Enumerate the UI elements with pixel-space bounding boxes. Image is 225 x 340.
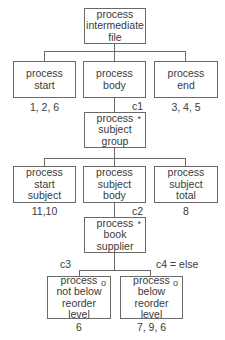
- connector: [114, 97, 115, 112]
- node-label: process book supplier: [97, 218, 134, 253]
- condition-c1: c1: [132, 100, 143, 112]
- connector: [114, 158, 115, 166]
- connector: [44, 158, 186, 159]
- connector: [114, 202, 115, 217]
- connector: [44, 158, 45, 166]
- connector: [79, 270, 151, 271]
- condition-c2: c2: [132, 205, 143, 217]
- annotation-start-subject: 11,10: [13, 205, 76, 217]
- node-label: process start: [26, 68, 63, 91]
- node-label: process subject group: [97, 113, 134, 148]
- node-label: process start subject: [26, 167, 63, 202]
- connector: [114, 51, 115, 61]
- node-label: process intermediate file: [86, 9, 144, 44]
- selection-marker-icon: o: [173, 279, 178, 288]
- annotation-not-below: 6: [47, 321, 111, 333]
- node-process-intermediate-file: process intermediate file: [84, 8, 146, 44]
- node-label: process end: [168, 68, 205, 91]
- annotation-below: 7, 9, 6: [120, 321, 183, 333]
- annotation-start: 1, 2, 6: [13, 101, 76, 113]
- connector: [185, 51, 186, 61]
- node-label: process subject body: [96, 167, 133, 202]
- connector: [114, 147, 115, 158]
- iteration-marker-icon: *: [137, 115, 141, 124]
- node-process-subject-total: process subject total: [154, 166, 218, 203]
- node-process-start: process start: [13, 61, 76, 98]
- node-process-end: process end: [154, 61, 218, 98]
- node-process-below-reorder-level: process below reorder level o: [120, 276, 183, 319]
- node-process-body: process body: [83, 61, 146, 98]
- node-label: process subject total: [168, 167, 205, 202]
- node-label: process not below reorder level: [57, 275, 102, 321]
- node-process-subject-group: process subject group *: [84, 112, 146, 148]
- connector: [44, 51, 186, 52]
- connector: [185, 158, 186, 166]
- annotation-end: 3, 4, 5: [154, 101, 218, 113]
- node-label: process below reorder level: [133, 275, 170, 321]
- connector: [114, 252, 115, 270]
- annotation-subject-total: 8: [154, 205, 218, 217]
- node-label: process body: [96, 68, 133, 91]
- node-process-book-supplier: process book supplier *: [84, 217, 146, 253]
- connector: [114, 43, 115, 51]
- node-process-not-below-reorder-level: process not below reorder level o: [47, 276, 111, 319]
- iteration-marker-icon: *: [137, 220, 141, 229]
- node-process-start-subject: process start subject: [13, 166, 76, 203]
- condition-c4: c4 = else: [156, 258, 198, 270]
- connector: [44, 51, 45, 61]
- node-process-subject-body: process subject body: [83, 166, 146, 203]
- condition-c3: c3: [60, 258, 71, 270]
- selection-marker-icon: o: [101, 279, 106, 288]
